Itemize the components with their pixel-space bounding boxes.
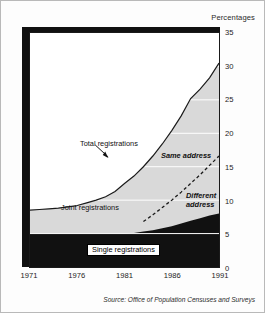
y-axis-tick-35: 35 [225, 28, 233, 37]
y-axis-tick-25: 25 [225, 95, 233, 104]
annotation-single-registrations: Single registrations [87, 244, 160, 256]
y-axis-tick-30: 30 [225, 61, 233, 70]
annotation-joint-registrations: Joint registrations [61, 203, 119, 212]
x-axis-tick-1991: 1991 [212, 271, 229, 280]
y-axis-tick-20: 20 [225, 129, 233, 138]
y-axis-tick-15: 15 [225, 162, 233, 171]
annotation-same-address: Same address [161, 151, 211, 160]
x-axis-tick-1986: 1986 [164, 271, 181, 280]
annotation-total-registrations: Total registrations [80, 139, 138, 148]
x-axis-tick-1981: 1981 [116, 271, 133, 280]
chart-svg [30, 33, 219, 267]
x-axis-tick-1976: 1976 [68, 271, 85, 280]
annotation-different-address: Different address [186, 191, 226, 209]
chart-figure: Percentages 0 5 10 15 20 25 30 35 1971 1… [0, 0, 265, 313]
x-axis-tick-1971: 1971 [21, 271, 38, 280]
y-axis-tick-5: 5 [225, 230, 229, 239]
chart-unit-label: Percentages [211, 13, 255, 22]
plot-area [29, 32, 220, 268]
source-credit: Source: Office of Population Censuses an… [103, 296, 255, 303]
y-axis-tick-10: 10 [225, 196, 233, 205]
